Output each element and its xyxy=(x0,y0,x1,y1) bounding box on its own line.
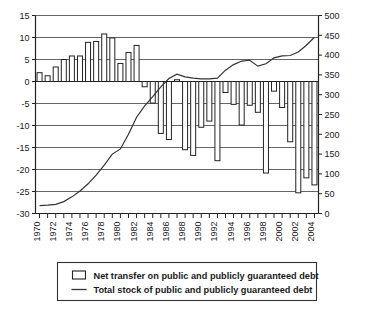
y-axis-right-tick-label: 300 xyxy=(325,90,340,100)
chart-legend: Net transfer on public and publicly guar… xyxy=(58,263,319,301)
bar-2004 xyxy=(312,82,317,185)
x-axis-ticks xyxy=(40,214,315,219)
x-axis-tick-label-1976: 1976 xyxy=(80,222,90,242)
bar-1979 xyxy=(110,38,115,82)
bar-1990 xyxy=(199,82,204,128)
legend-label-total-stock: Total stock of public and publicly guara… xyxy=(94,285,313,295)
x-axis-tick-label-1970: 1970 xyxy=(32,222,42,242)
bar-1992 xyxy=(215,82,220,161)
bar-1991 xyxy=(207,82,212,122)
y-axis-right-labels: 500450400350300250200150100500 xyxy=(325,11,340,219)
x-axis-tick-label-2002: 2002 xyxy=(290,222,300,242)
bar-1998 xyxy=(263,82,268,174)
bar-1973 xyxy=(61,60,66,82)
bar-1980 xyxy=(118,63,123,81)
bar-1984 xyxy=(150,82,155,104)
bar-1972 xyxy=(53,67,58,82)
y-axis-right-tick-label: 450 xyxy=(325,31,340,41)
y-axis-left-tick-label: 10 xyxy=(19,33,29,43)
x-axis-tick-label-1974: 1974 xyxy=(64,222,74,242)
y-axis-right-tick-label: 200 xyxy=(325,130,340,140)
x-axis-labels: 1970197219741976197819801982198419861988… xyxy=(32,222,317,242)
x-axis-tick-label-1992: 1992 xyxy=(209,222,219,242)
bar-1976 xyxy=(86,42,91,81)
x-axis-tick-label-1988: 1988 xyxy=(177,222,187,242)
y-axis-left-tick-label: 5 xyxy=(24,55,29,65)
y-axis-right-tick-label: 0 xyxy=(325,209,330,219)
y-axis-left-tick-label: -25 xyxy=(16,187,29,197)
y-axis-right-tick-label: 500 xyxy=(325,11,340,21)
y-axis-right-tick-label: 100 xyxy=(325,169,340,179)
bar-1974 xyxy=(69,56,74,82)
x-axis-tick-label-1996: 1996 xyxy=(242,222,252,242)
bar-1970 xyxy=(37,73,42,82)
x-axis-tick-label-1990: 1990 xyxy=(193,222,203,242)
bar-1975 xyxy=(77,56,82,82)
bar-1986 xyxy=(166,82,171,140)
legend-swatch-bar xyxy=(73,271,86,279)
x-axis-tick-label-1972: 1972 xyxy=(48,222,58,242)
y-axis-right-tick-label: 250 xyxy=(325,110,340,120)
bar-1989 xyxy=(191,82,196,156)
x-axis-tick-label-1982: 1982 xyxy=(129,222,139,242)
bar-2003 xyxy=(304,82,309,178)
y-axis-right-tick-label: 400 xyxy=(325,50,340,60)
y-axis-right-tick-label: 150 xyxy=(325,149,340,159)
x-axis-tick-label-1980: 1980 xyxy=(112,222,122,242)
y-axis-left-tick-label: 15 xyxy=(19,11,29,21)
x-axis-tick-label-1994: 1994 xyxy=(226,222,236,242)
y-axis-left-labels: 151050-5-10-15-20-25-30 xyxy=(16,11,29,219)
y-axis-left-tick-label: -20 xyxy=(16,165,29,175)
x-axis-tick-label-1978: 1978 xyxy=(96,222,106,242)
legend-label-net-transfer: Net transfer on public and publicly guar… xyxy=(94,271,319,281)
y-axis-right-tick-label: 350 xyxy=(325,70,340,80)
y-axis-left-tick-label: 0 xyxy=(24,77,29,87)
x-axis-tick-label-2004: 2004 xyxy=(306,222,316,242)
bar-1995 xyxy=(239,82,244,126)
bar-1997 xyxy=(255,82,260,113)
legend-border xyxy=(58,263,317,301)
gridlines-group xyxy=(36,16,319,214)
bar-1999 xyxy=(272,82,277,92)
bar-1977 xyxy=(94,41,99,81)
x-axis-tick-label-1998: 1998 xyxy=(258,222,268,242)
bar-1983 xyxy=(142,82,147,87)
y-axis-right-tick-label: 50 xyxy=(325,189,335,199)
bar-1988 xyxy=(183,82,188,150)
bar-1981 xyxy=(126,52,131,81)
y-axis-left-tick-label: -5 xyxy=(21,99,29,109)
y-axis-left-tick-label: -30 xyxy=(16,209,29,219)
bar-1993 xyxy=(223,82,228,93)
x-axis-tick-label-1986: 1986 xyxy=(161,222,171,242)
x-axis-tick-label-2000: 2000 xyxy=(274,222,284,242)
y-axis-left-tick-label: -15 xyxy=(16,143,29,153)
bar-1996 xyxy=(247,82,252,106)
bar-2002 xyxy=(296,82,301,193)
bar-2000 xyxy=(280,82,285,108)
bar-1971 xyxy=(45,76,50,82)
chart-figure: 151050-5-10-15-20-25-30 5004504003503002… xyxy=(0,0,374,310)
y-axis-left-tick-label: -10 xyxy=(16,121,29,131)
bar-2001 xyxy=(288,82,293,142)
combo-chart: 151050-5-10-15-20-25-30 5004504003503002… xyxy=(0,0,374,310)
bar-1982 xyxy=(134,45,139,81)
x-axis-tick-label-1984: 1984 xyxy=(145,222,155,242)
bar-1994 xyxy=(231,82,236,105)
bar-1978 xyxy=(102,34,107,82)
axes-group xyxy=(32,16,322,214)
